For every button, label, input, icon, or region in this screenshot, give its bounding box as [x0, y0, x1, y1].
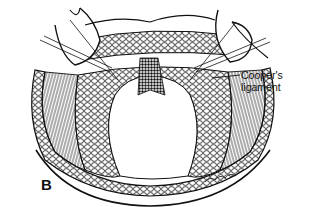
cooper-ligament-label: Cooper's ligament: [241, 69, 283, 93]
central-dark-strip: [138, 58, 165, 95]
cooper-label-line2: ligament: [241, 81, 283, 93]
panel-label: B: [41, 176, 52, 193]
surgical-illustration: Cooper's ligament B: [0, 0, 311, 207]
cooper-label-line1: Cooper's: [241, 69, 283, 81]
